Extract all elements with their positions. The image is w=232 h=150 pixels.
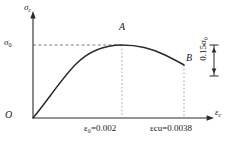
x-tick-label-epsilon-0: ε₀=0.002 [84, 124, 116, 133]
point-b-label: B [186, 53, 192, 63]
stress-drop-annotation-label: 0.15σ₀ [199, 37, 208, 61]
figure-canvas: σc εc O σ0 A B ε₀=0.002 εcu=0.0038 0.15σ… [0, 0, 232, 150]
x-axis [33, 115, 214, 120]
sigma0-axis-label: σ0 [4, 38, 12, 48]
origin-label: O [5, 110, 12, 120]
y-axis [30, 11, 35, 118]
y-axis-label: σc [24, 3, 31, 13]
stress-strain-curve [33, 45, 184, 118]
stress-drop-dimension-arrow [210, 45, 219, 76]
point-a-label: A [119, 22, 125, 32]
x-axis-label: εc [215, 108, 221, 118]
x-tick-label-epsilon-cu: εcu=0.0038 [150, 124, 192, 133]
